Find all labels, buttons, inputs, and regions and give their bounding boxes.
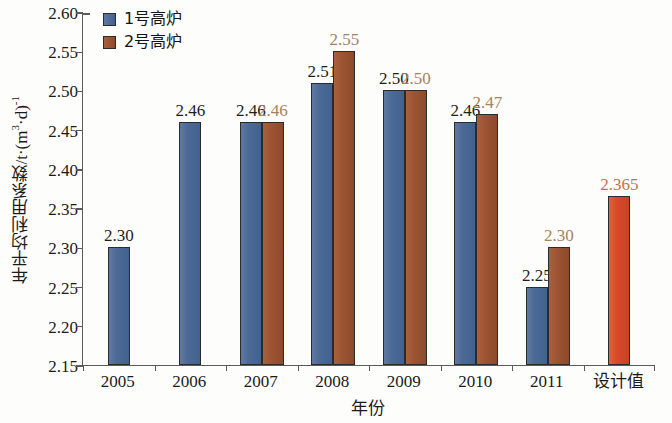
x-axis-tick-label: 2005 [101, 373, 135, 390]
bar-series1-2011 [526, 287, 548, 365]
y-axis-title-sup-3: 3 [9, 125, 21, 131]
bar-value-label-series1-2005: 2.30 [104, 227, 134, 244]
y-axis-tick-label: 2.20 [32, 318, 78, 335]
bar-value-label-design-设计值: 2.365 [600, 176, 638, 193]
y-axis-tick [76, 365, 83, 366]
y-axis-tick-label: 2.60 [32, 5, 78, 22]
x-axis-tick-labels: 2005200620072008200920102011设计值 [82, 373, 654, 399]
x-axis-tick [155, 365, 156, 371]
y-axis-title-text: 年平均利用系数/t·(m3·d)-1 [10, 96, 30, 284]
y-axis-tick-label: 2.40 [32, 161, 78, 178]
x-axis-tick-label: 2009 [387, 373, 421, 390]
x-axis-tick-label: 2008 [315, 373, 349, 390]
y-axis-tick [76, 248, 83, 249]
bar-series1-2010 [454, 122, 476, 365]
x-axis-tick-label: 2006 [172, 373, 206, 390]
x-axis-tick [83, 365, 84, 371]
bar-value-label-series1-2006: 2.46 [175, 102, 205, 119]
y-axis-tick-label: 2.45 [32, 122, 78, 139]
y-axis-tick [76, 130, 83, 131]
legend-swatch-icon-series1 [103, 13, 116, 26]
x-axis-tick [512, 365, 513, 371]
y-axis-tick [76, 169, 83, 170]
chart-legend: 1号高炉 2号高炉 [103, 11, 182, 50]
x-axis-tick-label: 2011 [530, 373, 563, 390]
y-axis-tick-label: 2.50 [32, 83, 78, 100]
y-axis-tick-label: 2.30 [32, 240, 78, 257]
y-axis-tick [76, 52, 83, 53]
x-axis-title: 年份 [82, 400, 654, 417]
legend-item-0: 1号高炉 [103, 11, 182, 27]
bar-value-label-series2-2007: 2.46 [258, 102, 288, 119]
bar-series1-2009 [383, 90, 405, 365]
x-axis-tick [654, 365, 655, 371]
y-axis-tick [76, 326, 83, 327]
bar-series1-2008 [311, 83, 333, 365]
y-axis-tick-label: 2.25 [32, 279, 78, 296]
x-axis-tick [441, 365, 442, 371]
x-axis-tick-label: 2007 [244, 373, 278, 390]
bar-value-label-series2-2009: 2.50 [401, 70, 431, 87]
legend-item-1: 2号高炉 [103, 34, 182, 50]
x-axis-tick-label: 设计值 [593, 373, 644, 390]
plot-area: 2.302.462.462.462.512.552.502.502.462.47… [82, 13, 654, 366]
bar-series2-2008 [333, 51, 355, 365]
bar-chart-figure: 年平均利用系数/t·(m3·d)-1 2.602.552.502.452.402… [0, 0, 672, 423]
axis-top-nub [83, 13, 90, 15]
y-axis-title-main: 年平均利用系数/t·(m [12, 131, 31, 284]
bar-value-label-series2-2011: 2.30 [544, 227, 574, 244]
x-axis-tick-label: 2010 [458, 373, 492, 390]
bar-series1-2007 [240, 122, 262, 365]
bar-series1-2005 [108, 247, 130, 365]
legend-swatch-icon-series2 [103, 36, 116, 49]
bar-series2-2011 [548, 247, 570, 365]
bar-series2-2010 [476, 114, 498, 365]
bar-value-label-series2-2008: 2.55 [329, 31, 359, 48]
y-axis-tick [76, 91, 83, 92]
y-axis-tick-label: 2.35 [32, 201, 78, 218]
y-axis-tick-labels: 2.602.552.502.452.402.352.302.252.202.15 [30, 0, 78, 423]
x-axis-tick [369, 365, 370, 371]
bar-design-设计值 [608, 196, 630, 365]
bar-series1-2006 [179, 122, 201, 365]
bar-series2-2007 [262, 122, 284, 365]
y-axis-title-mid: ·d) [12, 105, 31, 125]
x-axis-tick [226, 365, 227, 371]
y-axis-tick-label: 2.55 [32, 44, 78, 61]
y-axis-tick [76, 12, 83, 13]
y-axis-tick [76, 208, 83, 209]
x-axis-tick [584, 365, 585, 371]
bar-value-label-series2-2010: 2.47 [472, 94, 502, 111]
y-axis-tick [76, 287, 83, 288]
y-axis-title-sup-neg1: -1 [9, 96, 21, 105]
legend-label-series2: 2号高炉 [124, 34, 182, 50]
x-axis-tick [298, 365, 299, 371]
y-axis-tick-label: 2.15 [32, 358, 78, 375]
legend-label-series1: 1号高炉 [124, 11, 182, 27]
bar-series2-2009 [405, 90, 427, 365]
